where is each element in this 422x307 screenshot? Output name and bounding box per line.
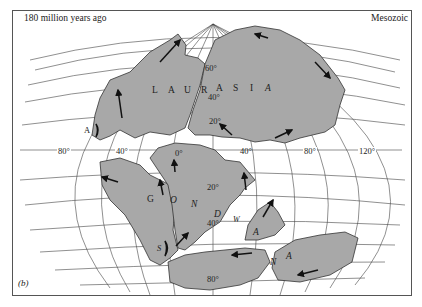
- laurasia-letter: I: [250, 84, 253, 94]
- latitude-label-40: 40°: [208, 93, 220, 102]
- latitude-label-20s: 20°: [207, 183, 219, 192]
- laurasia-letter: A: [265, 84, 271, 94]
- laurasia-letter: S: [233, 84, 238, 94]
- gondwana-letter: N: [270, 258, 276, 268]
- laurasia-letter: L: [152, 86, 158, 96]
- latitude-label-40s: 40°: [207, 219, 219, 228]
- latitude-label-20: 20°: [209, 117, 221, 126]
- longitude-label-40e: 40°: [240, 147, 252, 156]
- longitude-label-120e: 120°: [358, 147, 376, 156]
- laurasia-letter: U: [184, 86, 191, 96]
- a-marker-label: A: [84, 126, 90, 135]
- s-marker-label: S: [157, 244, 161, 253]
- gondwana-letter: A: [286, 252, 292, 262]
- latitude-label-80s: 80°: [207, 275, 219, 284]
- gondwana-letter: G: [147, 195, 154, 205]
- era-label: Mesozoic: [371, 13, 408, 23]
- gondwana-australia: [272, 232, 358, 282]
- gondwana-letter: A: [253, 228, 259, 238]
- gondwana-letter: W: [233, 216, 240, 224]
- gondwana-antarctica: [168, 248, 270, 290]
- longitude-label-80e: 80°: [303, 147, 317, 156]
- laurasia-letter: A: [168, 86, 175, 96]
- time-label: 180 million years ago: [24, 13, 107, 23]
- longitude-label-80w: 80°: [57, 147, 71, 156]
- gondwana-india: [245, 202, 285, 240]
- panel-label: (b): [18, 278, 29, 288]
- laurasia-letter: R: [201, 86, 207, 96]
- longitude-label-0: 0°: [175, 149, 183, 158]
- latitude-label-60: 60°: [205, 64, 217, 73]
- gondwana-letter: O: [170, 196, 177, 206]
- longitude-label-40w: 40°: [115, 147, 129, 156]
- gondwana-letter: N: [191, 200, 197, 210]
